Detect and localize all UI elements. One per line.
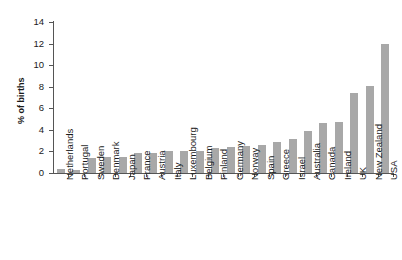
y-axis-tick-label: 14 [33,15,44,28]
y-axis-tick-mark [49,173,53,174]
x-axis-tick-label: Spain [266,156,276,180]
x-axis-tick-label: Japan [127,154,137,180]
x-axis-tick-label: Canada [327,147,337,180]
y-axis-tick-label: 12 [33,37,44,50]
x-axis-tick-label: Greece [281,149,291,180]
x-axis-tick-label: USA [389,160,399,180]
y-axis-tick-label: 4 [39,123,44,136]
x-axis-tick-label: Netherlands [65,129,75,180]
y-axis-tick-label: 8 [39,80,44,93]
x-axis-tick-label: Australia [312,143,322,180]
x-axis-tick-label: Denmark [111,141,121,180]
y-axis-tick-label: 6 [39,101,44,114]
x-axis-tick-label: Italy [173,163,183,180]
y-axis-tick-label: 10 [33,58,44,71]
x-axis-tick-label: Luxembourg [188,127,198,180]
x-axis-tick-label: Portugal [80,145,90,180]
y-axis-tick-label: 0 [39,166,44,179]
x-axis-tick-label: France [142,150,152,180]
x-axis-tick-label: Belgium [204,146,214,180]
x-axis-tick-label: New Zealand [374,124,384,180]
x-axis-tick-label: Germany [235,141,245,180]
x-axis-tick-label: Austria [157,150,167,180]
x-axis-tick-label: Norway [250,148,260,180]
y-axis-tick-label: 2 [39,144,44,157]
x-axis-tick-label: Israel [297,157,307,180]
x-axis-tick-label: Sweden [96,146,106,180]
x-axis-tick-label: Finland [219,149,229,180]
x-axis-tick-label: Ireland [343,151,353,180]
bar-chart: % of births 02468101214 NetherlandsPortu… [0,0,402,260]
x-axis-tick-label: UK [358,167,368,180]
